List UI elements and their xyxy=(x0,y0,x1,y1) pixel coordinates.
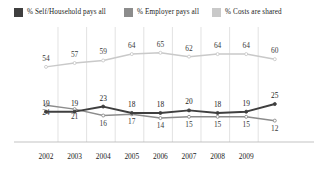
data-point xyxy=(102,59,105,62)
plot-area: 5457596465626464601919231818201819252421… xyxy=(0,24,324,147)
data-point-label: 24 xyxy=(42,109,49,117)
legend-item-self-household[interactable]: % Self/Household pays all xyxy=(14,5,106,19)
data-point-label: 18 xyxy=(157,101,164,109)
data-point-label: 23 xyxy=(99,95,106,103)
data-point xyxy=(245,53,248,56)
data-point-label: 12 xyxy=(271,125,278,133)
data-point-label: 15 xyxy=(185,121,192,129)
data-point-label: 21 xyxy=(71,113,78,121)
data-point xyxy=(102,114,105,117)
data-point-label: 19 xyxy=(242,100,249,108)
data-point-label: 54 xyxy=(42,55,49,63)
chart-legend: % Self/Household pays all % Employer pay… xyxy=(0,0,324,24)
data-point xyxy=(159,117,162,120)
data-point xyxy=(188,109,191,112)
data-point-label: 59 xyxy=(99,48,106,56)
data-point-label: 57 xyxy=(71,51,78,59)
data-point-label: 60 xyxy=(271,47,278,55)
data-point-label: 15 xyxy=(214,121,221,129)
data-point-label: 16 xyxy=(99,120,106,128)
data-point-label: 64 xyxy=(214,42,221,50)
data-point xyxy=(159,111,162,114)
data-point xyxy=(188,55,191,58)
data-point-label: 25 xyxy=(271,92,278,100)
x-axis-tick-label: 2005 xyxy=(124,152,139,161)
data-point-label: 17 xyxy=(128,118,135,126)
data-point xyxy=(159,51,162,54)
data-point-label: 15 xyxy=(242,121,249,129)
legend-label-costs-shared: % Costs are shared xyxy=(225,8,282,17)
x-axis-tick-label: 2002 xyxy=(39,152,54,161)
data-point xyxy=(73,62,76,65)
data-point xyxy=(45,65,48,68)
line-chart: % Self/Household pays all % Employer pay… xyxy=(0,0,324,171)
data-point-label: 62 xyxy=(185,45,192,53)
x-axis-tick-label: 2003 xyxy=(67,152,82,161)
data-point-label: 20 xyxy=(185,98,192,106)
data-point xyxy=(130,53,133,56)
data-point-label: 14 xyxy=(157,122,164,130)
data-point xyxy=(216,111,219,114)
data-point xyxy=(245,110,248,113)
data-point-label: 19 xyxy=(42,100,49,108)
legend-label-employer: % Employer pays all xyxy=(137,8,199,17)
data-point xyxy=(188,115,191,118)
data-point xyxy=(273,103,276,106)
data-point xyxy=(273,119,276,122)
legend-item-employer[interactable]: % Employer pays all xyxy=(124,5,199,19)
x-axis: 20022003200420052006200720082009 xyxy=(0,147,324,171)
data-point-label: 18 xyxy=(214,101,221,109)
x-axis-tick-label: 2007 xyxy=(182,152,197,161)
legend-swatch-costs-shared xyxy=(212,8,221,17)
data-point xyxy=(273,58,276,61)
legend-swatch-self-household xyxy=(14,8,23,17)
x-axis-tick-label: 2006 xyxy=(153,152,168,161)
data-point xyxy=(216,53,219,56)
data-point-label: 19 xyxy=(71,100,78,108)
legend-swatch-employer xyxy=(124,8,133,17)
x-axis-tick-label: 2008 xyxy=(210,152,225,161)
x-axis-tick-label: 2004 xyxy=(96,152,111,161)
data-point-label: 18 xyxy=(128,101,135,109)
x-axis-tick-label: 2009 xyxy=(239,152,254,161)
legend-label-self-household: % Self/Household pays all xyxy=(27,8,106,17)
data-point-label: 64 xyxy=(128,42,135,50)
data-point xyxy=(130,111,133,114)
data-point xyxy=(102,105,105,108)
data-point xyxy=(216,115,219,118)
data-point-label: 64 xyxy=(242,42,249,50)
series-line xyxy=(46,53,275,67)
legend-item-costs-shared[interactable]: % Costs are shared xyxy=(212,5,282,19)
data-point-label: 65 xyxy=(157,41,164,49)
data-point xyxy=(245,115,248,118)
